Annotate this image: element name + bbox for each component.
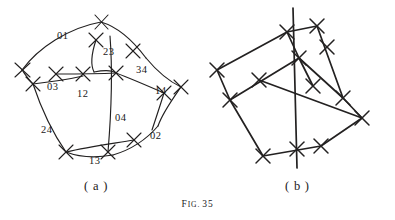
figure-panel-b [195, 0, 395, 178]
arc-inner-lower-horizontal [66, 140, 134, 152]
subcaption-b: ( b ) [285, 180, 310, 193]
figure-caption: FIG.35 [0, 200, 395, 210]
segment-inner-vertical [293, 8, 297, 168]
arc-outer-left-lower [33, 84, 66, 152]
subcaption-a: ( a ) [84, 180, 108, 193]
figure-caption-number: 35 [202, 199, 213, 209]
arc-outer-right-upper [146, 58, 181, 87]
crossing-label-02: 02 [150, 131, 162, 142]
crossing-label-12: 12 [77, 89, 89, 100]
crossing-label-13: 13 [89, 156, 101, 167]
figure-caption-smallcaps: IG. [188, 200, 201, 209]
crossing-label-14: 14 [155, 86, 167, 97]
figure-plate: 01 23 34 03 12 14 04 24 02 13 [0, 0, 395, 220]
segment-inner-chord-right [259, 80, 362, 118]
segment-outer-upper-left [217, 32, 287, 70]
arc-inner-mid-horizontal [56, 73, 116, 74]
crossing-label-23: 23 [103, 47, 115, 58]
knot-diagram-a [0, 0, 200, 178]
crossing-label-24: 24 [41, 125, 53, 136]
crossing-label-03: 03 [47, 82, 59, 93]
crossing-label-04: 04 [115, 113, 127, 124]
figure-panel-a: 01 23 34 03 12 14 04 24 02 13 [0, 0, 200, 178]
crossing-label-34: 34 [136, 65, 148, 76]
knot-diagram-b [195, 0, 395, 178]
segment-outer-lower-left [230, 100, 263, 156]
arc-inner-upper-loop [92, 40, 96, 72]
segment-inner-diagonal-left [230, 58, 299, 100]
segment-outer-left [217, 70, 230, 100]
segment-outer-lower-right [321, 118, 362, 146]
segment-inner-chord-lower [299, 58, 313, 86]
crossing-label-01: 01 [57, 31, 69, 42]
